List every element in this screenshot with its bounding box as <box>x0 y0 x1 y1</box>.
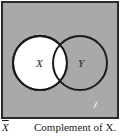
caption-description: Complement of X. <box>34 121 116 133</box>
complement-symbol: X <box>2 121 9 133</box>
label-x: X <box>35 57 44 69</box>
venn-diagram: X Y <box>0 0 120 120</box>
caption: X Complement of X. <box>0 118 120 136</box>
